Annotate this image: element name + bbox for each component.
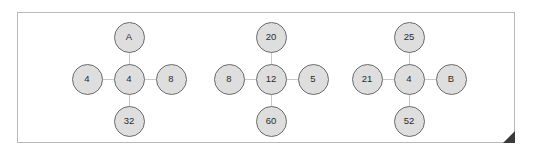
- node-group-2-bottom: 60: [256, 106, 287, 137]
- node-group-3-bottom: 52: [394, 106, 425, 137]
- node-group-2-right: 5: [298, 64, 329, 95]
- page-fold-corner-icon: [503, 131, 515, 143]
- node-group-3-top: 25: [394, 22, 425, 53]
- node-group-1-center: 4: [114, 64, 145, 95]
- node-group-1-top: A: [114, 22, 145, 53]
- node-group-1-left: 4: [72, 64, 103, 95]
- diagram-canvas: 4A3248122060854255221B: [0, 0, 536, 160]
- node-group-3-center: 4: [394, 64, 425, 95]
- node-group-3-right: B: [436, 64, 467, 95]
- node-group-1-bottom: 32: [114, 106, 145, 137]
- node-group-2-left: 8: [214, 64, 245, 95]
- node-group-3-left: 21: [352, 64, 383, 95]
- node-group-2-center: 12: [256, 64, 287, 95]
- node-group-2-top: 20: [256, 22, 287, 53]
- node-group-1-right: 8: [156, 64, 187, 95]
